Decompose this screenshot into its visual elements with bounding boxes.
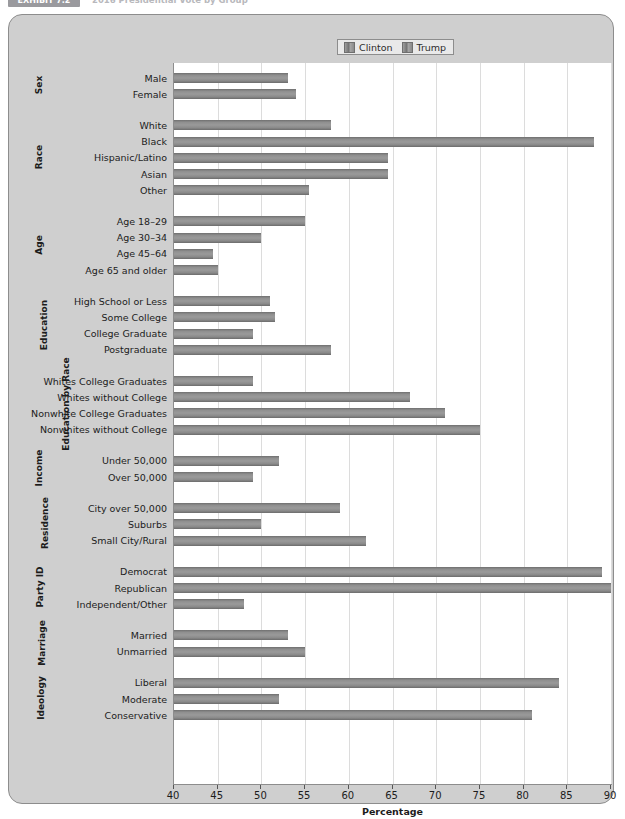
bar-row <box>174 694 611 704</box>
bar <box>174 329 253 339</box>
bar-row <box>174 329 611 339</box>
chart-legend: ClintonTrump <box>337 39 454 55</box>
group-label-age: Age <box>19 240 59 250</box>
row-label: Whites College Graduates <box>9 377 167 387</box>
bar <box>174 678 559 688</box>
bar-row <box>174 536 611 546</box>
bar <box>174 216 305 226</box>
row-label: Female <box>9 90 167 100</box>
axis-tick <box>479 785 480 789</box>
bar-row <box>174 376 611 386</box>
group-label-ideology: Ideology <box>19 693 59 703</box>
group-label-residence: Residence <box>19 518 59 528</box>
bar-row <box>174 185 611 195</box>
bar-row <box>174 710 611 720</box>
group-label-party-id: Party ID <box>19 582 59 592</box>
row-label: High School or Less <box>9 297 167 307</box>
row-label: Age 65 and older <box>9 266 167 276</box>
legend-swatch-icon <box>344 42 355 53</box>
bar-row <box>174 647 611 657</box>
row-label: Asian <box>9 170 167 180</box>
bar-row <box>174 599 611 609</box>
legend-entry-clinton: Clinton <box>344 42 393 53</box>
bar <box>174 376 253 386</box>
bar <box>174 265 218 275</box>
bar <box>174 137 594 147</box>
row-label: City over 50,000 <box>9 504 167 514</box>
bar <box>174 233 261 243</box>
plot-area <box>173 63 612 785</box>
row-label: Age 18–29 <box>9 217 167 227</box>
bar <box>174 73 288 83</box>
group-label-sex: Sex <box>19 80 59 90</box>
axis-tick <box>610 785 611 789</box>
exhibit-badge: EXHIBIT 7.2 <box>8 0 80 7</box>
bar-row <box>174 472 611 482</box>
row-label: College Graduate <box>9 329 167 339</box>
row-label: Postgraduate <box>9 345 167 355</box>
bar-row <box>174 567 611 577</box>
axis-tick-label: 65 <box>372 790 412 801</box>
bar-row <box>174 408 611 418</box>
row-label: Unmarried <box>9 647 167 657</box>
bar-row <box>174 312 611 322</box>
group-label-marriage: Marriage <box>19 638 59 648</box>
bar <box>174 456 279 466</box>
bar <box>174 153 388 163</box>
bar <box>174 694 279 704</box>
axis-tick-label: 85 <box>546 790 586 801</box>
bar <box>174 345 331 355</box>
axis-tick-label: 45 <box>197 790 237 801</box>
bar-row <box>174 216 611 226</box>
row-label: Other <box>9 186 167 196</box>
axis-tick-label: 70 <box>415 790 455 801</box>
bar <box>174 583 611 593</box>
gridline <box>611 63 612 784</box>
axis-tick-label: 60 <box>328 790 368 801</box>
x-axis-title: Percentage <box>173 806 612 817</box>
bar <box>174 519 261 529</box>
bar-row <box>174 678 611 688</box>
axis-tick <box>260 785 261 789</box>
bar <box>174 185 309 195</box>
bar-row <box>174 583 611 593</box>
bar-row <box>174 169 611 179</box>
bar <box>174 89 296 99</box>
chart-panel: ClintonTrump MaleFemaleWhiteBlackHispani… <box>8 14 614 804</box>
exhibit-title: 2016 Presidential Vote by Group <box>92 0 248 7</box>
bar <box>174 710 532 720</box>
axis-tick-label: 55 <box>284 790 324 801</box>
legend-swatch-icon <box>402 42 413 53</box>
group-label-education: Education <box>19 320 59 330</box>
bar-row <box>174 425 611 435</box>
row-label: Black <box>9 137 167 147</box>
axis-tick <box>304 785 305 789</box>
row-label: Nonwhites without College <box>9 425 167 435</box>
row-label: Independent/Other <box>9 600 167 610</box>
bar <box>174 503 340 513</box>
row-label: Conservative <box>9 711 167 721</box>
bar <box>174 296 270 306</box>
bar-row <box>174 630 611 640</box>
bar <box>174 312 275 322</box>
bar <box>174 567 602 577</box>
axis-tick <box>173 785 174 789</box>
bar-row <box>174 233 611 243</box>
axis-tick-label: 40 <box>153 790 193 801</box>
bar <box>174 647 305 657</box>
bar <box>174 599 244 609</box>
bar-row <box>174 89 611 99</box>
bar-row <box>174 296 611 306</box>
row-label: Liberal <box>9 678 167 688</box>
axis-tick <box>523 785 524 789</box>
axis-tick <box>217 785 218 789</box>
bar <box>174 472 253 482</box>
x-axis: 4045505560657075808590 <box>173 785 612 807</box>
bar-row <box>174 392 611 402</box>
bar-row <box>174 137 611 147</box>
axis-tick <box>435 785 436 789</box>
axis-tick <box>392 785 393 789</box>
bar <box>174 536 366 546</box>
bar-row <box>174 73 611 83</box>
group-label-race: Race <box>19 152 59 162</box>
